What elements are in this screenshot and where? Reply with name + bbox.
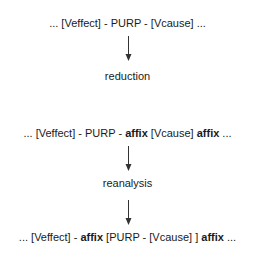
affix-marker: affix <box>80 231 103 243</box>
stage-3-segment: [PURP - [Vcause] ] <box>103 231 201 243</box>
affix-marker: affix <box>197 127 220 139</box>
stage-1-construction: ... [Veffect] - PURP - [Vcause] ... <box>0 16 255 30</box>
arrow-down-icon <box>124 36 133 61</box>
stage-2-segment: ... <box>219 127 231 139</box>
stage-2-construction: ... [Veffect] - PURP - affix [Vcause] af… <box>0 126 255 140</box>
stage-3-segment: ... <box>224 231 236 243</box>
stage-3-segment: ... [Veffect] - <box>19 231 81 243</box>
stage-3-construction: ... [Veffect] - affix [PURP - [Vcause] ]… <box>0 230 255 244</box>
arrow-down-icon <box>124 200 133 225</box>
affix-marker: affix <box>201 231 224 243</box>
stage-1-segment: ... [Veffect] - PURP - [Vcause] ... <box>49 17 206 29</box>
stage-2-segment: [Vcause] <box>148 127 197 139</box>
transition-label-reduction: reduction <box>0 69 255 83</box>
transition-label-reanalysis: reanalysis <box>0 176 255 190</box>
arrow-down-icon <box>124 146 133 171</box>
stage-2-segment: ... [Veffect] - PURP - <box>23 127 125 139</box>
affix-marker: affix <box>125 127 148 139</box>
